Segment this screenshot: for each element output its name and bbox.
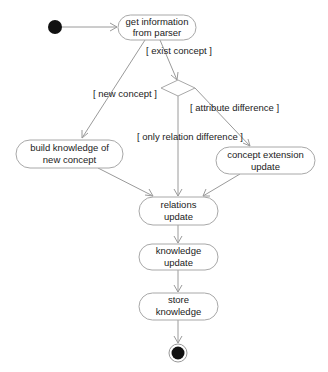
action-label-line: knowledge xyxy=(156,245,201,256)
initial-node xyxy=(48,20,62,34)
action-get-information: get information from parser xyxy=(118,15,196,40)
edge-build-to-relations xyxy=(98,168,153,196)
action-label-line: knowledge xyxy=(156,306,201,317)
final-node xyxy=(169,344,187,362)
action-label-line: update xyxy=(164,211,193,222)
action-label-line: build knowledge of xyxy=(30,142,109,153)
action-label-line: new concept xyxy=(43,154,97,165)
guard-only-relation-difference: [ only relation difference ] xyxy=(137,131,243,142)
action-label-line: from parser xyxy=(133,27,182,38)
action-label-line: relations xyxy=(161,199,197,210)
action-build-knowledge: build knowledge of new concept xyxy=(16,140,123,168)
action-relations-update: relations update xyxy=(139,197,218,225)
action-label-line: concept extension xyxy=(227,149,304,160)
activity-diagram: get information from parser build knowle… xyxy=(0,0,328,372)
guard-exist-concept: [ exist concept ] xyxy=(146,45,212,56)
action-concept-extension-update: concept extension update xyxy=(216,147,315,174)
edge-extension-to-relations xyxy=(203,174,240,196)
guard-new-concept: [ new concept ] xyxy=(93,88,157,99)
guard-attribute-difference: [ attribute difference ] xyxy=(190,102,279,113)
action-label-line: update xyxy=(164,257,193,268)
decision-node xyxy=(161,80,195,96)
action-label-line: store xyxy=(168,294,189,305)
action-store-knowledge: store knowledge xyxy=(139,293,218,320)
action-label-line: get information xyxy=(126,16,189,27)
action-knowledge-update: knowledge update xyxy=(139,244,218,270)
action-label-line: update xyxy=(251,161,280,172)
